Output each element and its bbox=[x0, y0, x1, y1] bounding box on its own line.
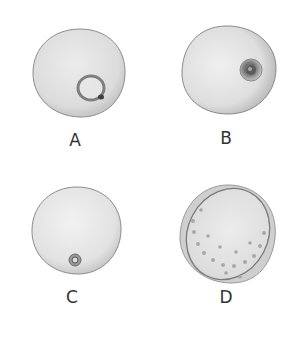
panel-label-d: D bbox=[216, 287, 236, 307]
panel-label-c: C bbox=[62, 287, 82, 307]
cell-b bbox=[182, 26, 276, 114]
cell-a-illustration bbox=[0, 0, 299, 338]
cell-c bbox=[32, 187, 121, 274]
panel-label-b: B bbox=[216, 128, 236, 148]
nucleus-a bbox=[78, 76, 104, 100]
nucleus-b bbox=[240, 59, 262, 81]
cell-a bbox=[33, 29, 125, 117]
figure: A B C D bbox=[0, 0, 299, 338]
nucleus-c bbox=[69, 254, 81, 266]
cell-d bbox=[171, 174, 286, 295]
panel-label-a: A bbox=[65, 130, 85, 150]
